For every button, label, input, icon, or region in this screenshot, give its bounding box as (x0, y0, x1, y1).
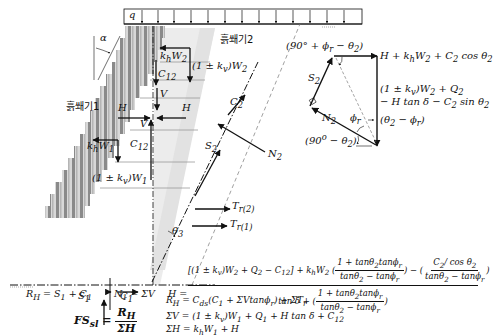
force-V-top: V (160, 88, 167, 99)
force-khW2: khW2 (160, 50, 187, 64)
force-S2: S2 (205, 140, 217, 154)
force-C2: C2 (230, 96, 243, 110)
force-V-lower: V (140, 118, 147, 129)
force-C12-top: C12 (158, 68, 176, 82)
force-Tr1: Tr(1) (230, 218, 252, 232)
eq-RH-sum: RH = S1 + C1 (26, 288, 92, 302)
soil-wedge-2-label: 흙쐐기2 (220, 31, 253, 46)
eq-RH-full: RH = Cds(C1 + ΣVtanϕr) + ΣTr (166, 294, 307, 310)
polygon-N2: N2 (322, 112, 336, 126)
polygon-angle-diff: (θ2 − ϕr) (380, 114, 425, 128)
polygon-bottom-angle: (90o − θ2) (305, 132, 357, 149)
surcharge-label: q (129, 9, 135, 20)
force-Tr2: Tr(2) (232, 200, 254, 214)
polygon-S2: S2 (308, 72, 320, 86)
eq-SumH: ΣH = khW1 + H (166, 324, 239, 336)
polygon-top-angle: (90° + ϕr − θ2) (286, 40, 363, 54)
soil-wedge-1-label: 흙쐐기1 (66, 98, 99, 113)
polygon-right-line1: (1 ± kv)W2 + Q2 (380, 83, 464, 97)
polygon-right-line2: − H tan δ − C2 sin θ2 (380, 96, 489, 110)
eq-SumV: ΣV = (1 ± kv)W1 + Q1 + H tan δ + C12 (166, 311, 344, 324)
force-N2: N2 (268, 148, 282, 162)
angle-theta2: θ3 (172, 225, 183, 239)
force-H-left: H (118, 102, 127, 113)
eq-FS: FSsl = RHΣH (74, 306, 137, 335)
surcharge-load (124, 9, 362, 27)
angle-alpha-label: α (100, 32, 107, 43)
force-H-right: H (182, 102, 191, 113)
eq-group: RH = Cds(C1 + ΣVtanϕr) + ΣTr (166, 294, 307, 310)
tie-forces (192, 209, 230, 226)
polygon-top-right: H + khW2 + C2 cos θ2 (380, 50, 493, 64)
force-kvW1: (1 ± kv)W1 (92, 172, 147, 186)
force-C12-lower: C12 (130, 138, 148, 152)
force-kvW2: (1 ± kv)W2 (192, 60, 247, 74)
force-khW1: khW1 (87, 140, 114, 154)
polygon-phi-r: ϕr (350, 112, 361, 126)
eq-N1: N1 = ΣV (114, 288, 155, 302)
